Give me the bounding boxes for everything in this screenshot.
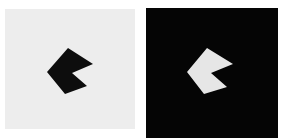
chevron-shape-dark <box>47 48 93 94</box>
shapes-layer <box>0 0 283 140</box>
chevron-shape-light <box>187 48 233 94</box>
